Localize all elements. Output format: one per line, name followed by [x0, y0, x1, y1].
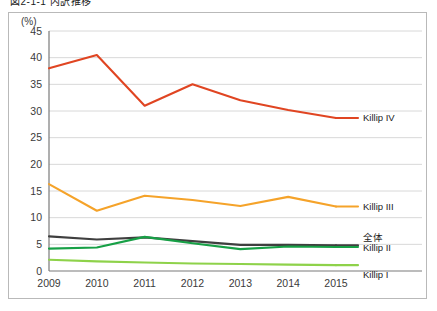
- x-axis-tick-label: 2011: [133, 277, 156, 289]
- y-axis-tick-label: 30: [30, 105, 42, 117]
- series-label: Killip IV: [363, 112, 395, 123]
- series-line: [49, 184, 336, 211]
- y-axis-tick-label: 35: [30, 78, 42, 90]
- x-axis-tick-label: 2012: [181, 277, 205, 289]
- series-line: [49, 260, 336, 265]
- line-chart: (%)0510152025303540452009201020112012201…: [9, 13, 426, 298]
- plot-area: (%)0510152025303540452009201020112012201…: [9, 13, 426, 298]
- y-axis-tick-label: 25: [30, 131, 42, 143]
- series-label: Killip III: [363, 201, 394, 212]
- x-axis-tick-label: 2015: [324, 277, 348, 289]
- y-axis-tick-label: 15: [30, 185, 42, 197]
- y-axis-tick-label: 20: [30, 158, 42, 170]
- figure-caption: 図2-1-1 内訳推移: [10, 0, 92, 8]
- x-axis-tick-label: 2014: [276, 277, 300, 289]
- chart-frame: (%)0510152025303540452009201020112012201…: [8, 12, 427, 299]
- series-label: Killip II: [363, 242, 391, 253]
- y-axis-tick-label: 10: [30, 211, 42, 223]
- x-axis-tick-label: 2010: [85, 277, 109, 289]
- x-axis-tick-label: 2009: [37, 277, 61, 289]
- series-label: Killip I: [363, 269, 388, 280]
- y-axis-tick-label: 5: [36, 238, 42, 250]
- series-line: [49, 55, 336, 118]
- y-axis-tick-label: 45: [30, 25, 42, 37]
- y-axis-tick-label: 40: [30, 51, 42, 63]
- x-axis-tick-label: 2013: [229, 277, 253, 289]
- y-axis-tick-label: 0: [36, 265, 42, 277]
